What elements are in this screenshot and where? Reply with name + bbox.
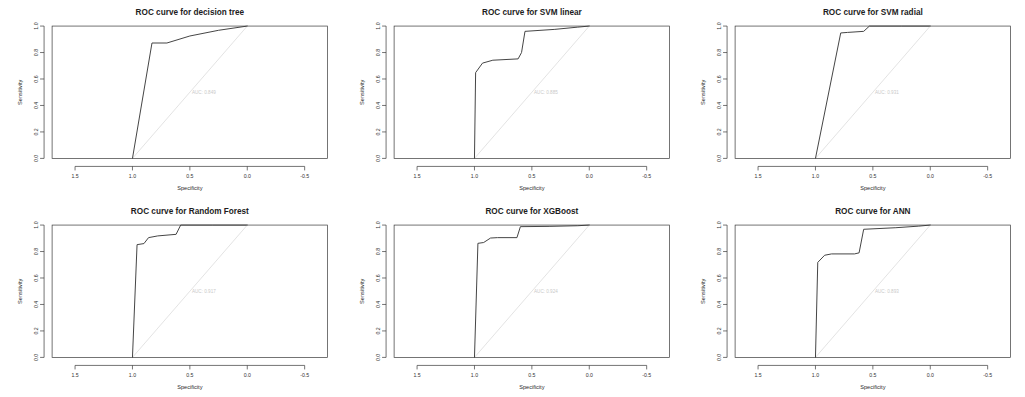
y-tick-label: 0.8: [716, 247, 722, 254]
x-tick-label: 1.5: [755, 173, 762, 179]
x-tick-label: 0.0: [585, 173, 592, 179]
y-tick-label: 0.8: [33, 247, 39, 254]
auc-annotation: AUC: 0.931: [875, 90, 899, 95]
y-tick-label: 1.0: [33, 221, 39, 228]
y-tick-label: 0.2: [33, 128, 39, 135]
auc-annotation: AUC: 0.893: [875, 289, 899, 294]
y-tick-label: 0.6: [33, 75, 39, 82]
y-tick-label: 0.6: [33, 274, 39, 281]
x-tick-label: 0.0: [244, 372, 251, 378]
roc-panel-1: ROC curve for decision tree1.51.00.50.0-…: [0, 0, 342, 199]
x-tick-label: 1.5: [413, 173, 420, 179]
y-tick-label: 0.0: [716, 155, 722, 162]
x-tick-label: 0.0: [927, 372, 934, 378]
roc-panel-2: ROC curve for SVM linear1.51.00.50.0-0.5…: [342, 0, 684, 199]
x-tick-label: 1.0: [129, 173, 136, 179]
x-axis-title: Specificity: [519, 185, 544, 191]
x-tick-label: 0.0: [585, 372, 592, 378]
y-tick-label: 0.8: [375, 49, 381, 56]
roc-panel-5: ROC curve for XGBoost1.51.00.50.0-0.5Spe…: [342, 199, 684, 397]
x-tick-label: 1.5: [755, 372, 762, 378]
chance-diagonal-line: [816, 225, 931, 357]
y-tick-label: 0.0: [33, 353, 39, 360]
y-tick-label: 0.0: [375, 353, 381, 360]
y-tick-label: 0.2: [716, 128, 722, 135]
panel-title: ROC curve for XGBoost: [485, 207, 578, 216]
y-tick-label: 0.8: [33, 49, 39, 56]
x-tick-label: -0.5: [642, 173, 651, 179]
y-tick-label: 0.2: [375, 128, 381, 135]
y-tick-label: 0.8: [375, 247, 381, 254]
chance-diagonal-line: [474, 225, 589, 357]
y-tick-label: 0.2: [716, 327, 722, 334]
y-tick-label: 0.4: [716, 300, 722, 307]
x-axis-title: Specificity: [519, 384, 544, 390]
y-axis-title: Sensitivity: [359, 278, 365, 303]
y-tick-label: 0.4: [33, 102, 39, 109]
x-tick-label: 1.0: [812, 372, 819, 378]
x-tick-label: 1.0: [471, 372, 478, 378]
x-tick-label: 0.5: [528, 173, 535, 179]
y-tick-label: 0.6: [375, 75, 381, 82]
panel-title: ROC curve for Random Forest: [131, 207, 249, 216]
y-tick-label: 1.0: [716, 22, 722, 29]
chance-diagonal-line: [474, 26, 589, 158]
y-tick-label: 0.0: [375, 155, 381, 162]
x-tick-label: -0.5: [300, 173, 309, 179]
y-axis-title: Sensitivity: [359, 79, 365, 104]
y-tick-label: 0.2: [375, 327, 381, 334]
roc-panel-grid: ROC curve for decision tree1.51.00.50.0-…: [0, 0, 1025, 397]
x-tick-label: 1.0: [471, 173, 478, 179]
y-tick-label: 0.6: [716, 274, 722, 281]
y-axis-title: Sensitivity: [17, 79, 23, 104]
x-tick-label: 1.5: [71, 173, 78, 179]
y-tick-label: 0.4: [375, 102, 381, 109]
y-tick-label: 1.0: [375, 221, 381, 228]
y-tick-label: 0.8: [716, 49, 722, 56]
x-tick-label: -0.5: [300, 372, 309, 378]
y-tick-label: 1.0: [375, 22, 381, 29]
x-tick-label: -0.5: [984, 372, 993, 378]
y-axis-title: Sensitivity: [700, 79, 706, 104]
roc-panel-6: ROC curve for ANN1.51.00.50.0-0.5Specifi…: [683, 199, 1025, 397]
x-axis-title: Specificity: [177, 384, 202, 390]
auc-annotation: AUC: 0.917: [192, 289, 216, 294]
y-tick-label: 0.2: [33, 327, 39, 334]
x-axis-title: Specificity: [861, 384, 886, 390]
x-tick-label: 0.5: [870, 372, 877, 378]
chance-diagonal-line: [132, 225, 247, 357]
x-tick-label: 0.5: [186, 173, 193, 179]
y-tick-label: 0.0: [716, 353, 722, 360]
chance-diagonal-line: [816, 26, 931, 158]
x-tick-label: 1.0: [129, 372, 136, 378]
y-tick-label: 0.0: [33, 155, 39, 162]
x-tick-label: -0.5: [642, 372, 651, 378]
x-tick-label: 1.5: [413, 372, 420, 378]
y-tick-label: 1.0: [33, 22, 39, 29]
y-tick-label: 1.0: [716, 221, 722, 228]
y-tick-label: 0.6: [375, 274, 381, 281]
auc-annotation: AUC: 0.885: [534, 90, 558, 95]
panel-title: ROC curve for SVM linear: [482, 8, 583, 17]
y-axis-title: Sensitivity: [17, 278, 23, 303]
x-tick-label: 0.0: [927, 173, 934, 179]
y-tick-label: 0.4: [33, 300, 39, 307]
x-tick-label: -0.5: [984, 173, 993, 179]
panel-title: ROC curve for ANN: [836, 207, 911, 216]
y-tick-label: 0.6: [716, 75, 722, 82]
y-axis-title: Sensitivity: [700, 278, 706, 303]
auc-annotation: AUC: 0.849: [192, 90, 216, 95]
x-tick-label: 0.5: [870, 173, 877, 179]
x-axis-title: Specificity: [861, 185, 886, 191]
x-tick-label: 1.0: [812, 173, 819, 179]
panel-title: ROC curve for SVM radial: [823, 8, 923, 17]
auc-annotation: AUC: 0.924: [534, 289, 558, 294]
x-tick-label: 0.5: [186, 372, 193, 378]
x-tick-label: 0.0: [244, 173, 251, 179]
roc-panel-3: ROC curve for SVM radial1.51.00.50.0-0.5…: [683, 0, 1025, 199]
panel-title: ROC curve for decision tree: [136, 8, 245, 17]
chance-diagonal-line: [132, 26, 247, 158]
x-axis-title: Specificity: [177, 185, 202, 191]
y-tick-label: 0.4: [716, 102, 722, 109]
y-tick-label: 0.4: [375, 300, 381, 307]
